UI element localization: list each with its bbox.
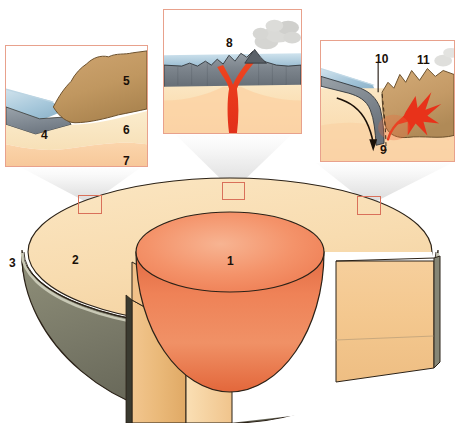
label-1: 1 bbox=[227, 255, 234, 267]
label-3: 3 bbox=[9, 257, 16, 269]
label-5: 5 bbox=[123, 75, 130, 87]
continental-margin-graphic bbox=[6, 46, 147, 166]
label-4: 4 bbox=[41, 129, 48, 141]
core-top-surface bbox=[136, 212, 324, 292]
label-2: 2 bbox=[72, 254, 79, 266]
label-10: 10 bbox=[375, 53, 388, 65]
melt-halo bbox=[378, 115, 410, 141]
marker-left[interactable] bbox=[78, 195, 102, 214]
volcano-graphic bbox=[164, 10, 301, 133]
label-9: 9 bbox=[380, 144, 387, 156]
marker-right[interactable] bbox=[357, 196, 381, 215]
earth-structure-figure: 1 2 3 4 5 6 7 8 10 11 9 bbox=[0, 0, 460, 423]
marker-middle[interactable] bbox=[222, 182, 245, 200]
label-6: 6 bbox=[123, 124, 130, 136]
label-11: 11 bbox=[417, 54, 430, 66]
shell-slab-left bbox=[126, 295, 132, 423]
callout-panel-continental-margin bbox=[5, 45, 148, 167]
callout-panel-volcano bbox=[163, 9, 302, 134]
label-7: 7 bbox=[123, 155, 130, 167]
label-8: 8 bbox=[226, 37, 233, 49]
mantle-cut-face-right bbox=[336, 261, 434, 382]
shell-slab-right bbox=[434, 256, 440, 368]
